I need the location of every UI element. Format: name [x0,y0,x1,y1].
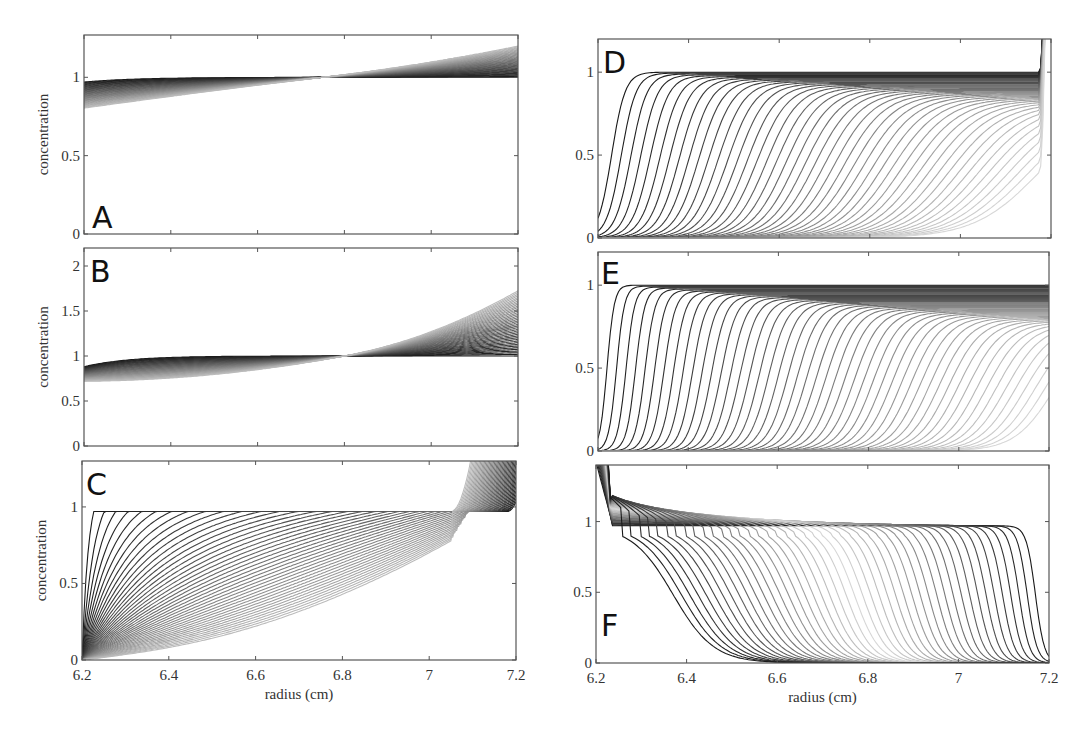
concentration-curve [598,22,1051,238]
concentration-curve [596,437,1049,663]
y-tick-label: 1.5 [61,303,80,319]
y-tick-label: 0.5 [575,360,594,376]
concentration-curve [596,444,1049,663]
axes-frame [596,465,1049,663]
concentration-curve [82,482,516,660]
curve-family [598,285,1049,451]
concentration-curve [596,440,1049,663]
concentration-curve [598,22,1051,238]
x-tick-label: 6.6 [768,670,787,686]
y-tick-label: 0 [73,226,81,242]
concentration-curve [596,437,1049,663]
concentration-curve [598,22,1051,238]
x-tick-label: 7.2 [507,667,526,683]
concentration-curve [598,22,1051,238]
concentration-curve [596,437,1049,663]
concentration-curve [598,300,1049,451]
x-tick-label: 7 [425,667,433,683]
concentration-curve [596,437,1049,663]
y-tick-label: 0 [587,443,595,459]
concentration-curve [596,437,1049,663]
concentration-curve [598,22,1051,238]
concentration-curve [598,22,1051,238]
y-tick-label: 1 [71,499,79,515]
concentration-curve [598,22,1051,238]
concentration-curve [598,22,1051,238]
concentration-curve [596,437,1049,663]
curve-family [82,430,516,660]
concentration-curve [596,437,1049,663]
concentration-curve [598,22,1051,238]
y-tick-label: 0 [587,230,595,246]
concentration-curve [596,437,1049,663]
concentration-curve [598,22,1051,238]
concentration-curve [598,297,1049,451]
concentration-curve [596,437,1049,663]
x-tick-label: 6.6 [246,667,265,683]
concentration-curve [598,22,1051,237]
axes-frame [598,252,1049,451]
concentration-curve [598,22,1051,238]
concentration-curve [596,437,1049,663]
y-axis-title: concentration [35,93,51,175]
concentration-curve [598,22,1051,238]
y-axis-title: concentration [33,519,49,601]
concentration-curve [598,330,1049,451]
concentration-curve [596,437,1049,663]
curve-family [84,46,518,108]
panel-letter: E [601,256,620,291]
concentration-curve [598,22,1051,238]
panel-a: 00.51concentrationA [35,35,518,242]
panel-letter: D [603,45,626,80]
concentration-curve [598,22,1051,238]
concentration-curve [598,22,1051,238]
y-tick-label: 0 [585,655,593,671]
concentration-curve [596,437,1049,663]
concentration-curve [598,22,1051,238]
concentration-curve [598,22,1051,238]
concentration-curve [596,437,1049,663]
x-tick-label: 7 [955,670,963,686]
concentration-curve [596,437,1049,663]
axes-frame [598,39,1051,238]
y-tick-label: 0 [71,652,79,668]
y-tick-label: 2 [73,258,81,274]
y-tick-label: 0.5 [61,148,80,164]
concentration-curve [598,22,1051,238]
concentration-curve [596,437,1049,663]
concentration-curve [598,22,1051,238]
concentration-curve [596,437,1049,663]
concentration-curve [598,22,1051,238]
x-tick-label: 6.4 [677,670,696,686]
concentration-curve [596,437,1049,663]
concentration-curve [596,437,1049,663]
curve-family [84,291,518,382]
concentration-curve [596,437,1049,663]
x-tick-label: 6.8 [858,670,877,686]
panel-letter: C [86,467,107,502]
panel-c: 6.26.46.66.877.2radius (cm)00.51concentr… [33,430,525,703]
concentration-curve [598,22,1051,238]
y-tick-label: 0.5 [59,575,78,591]
concentration-curve [598,301,1049,451]
concentration-curve [598,22,1051,238]
x-tick-label: 6.2 [73,667,92,683]
y-tick-label: 0.5 [573,584,592,600]
concentration-curve [598,22,1051,237]
panel-e: 00.51E [575,252,1049,459]
x-axis-title: radius (cm) [265,686,334,703]
y-tick-label: 1 [73,348,81,364]
concentration-curve [596,437,1049,663]
concentration-curve [598,22,1051,238]
figure-six-panel-concentration-profiles: 00.51concentrationA00.511.52concentratio… [0,0,1083,746]
concentration-curve [598,335,1049,451]
y-tick-label: 1 [587,64,595,80]
y-tick-label: 0.5 [61,393,80,409]
concentration-curve [82,430,516,660]
concentration-curve [596,437,1049,663]
concentration-curve [598,22,1051,238]
concentration-curve [596,437,1049,663]
curve-family [596,437,1049,663]
y-tick-label: 1 [585,514,593,530]
concentration-curve [598,22,1051,238]
